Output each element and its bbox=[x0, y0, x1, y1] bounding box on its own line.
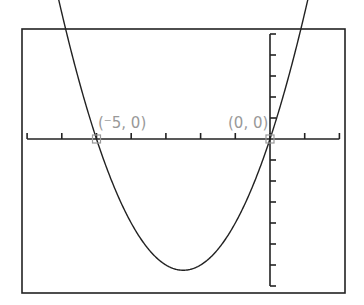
plot-frame bbox=[22, 29, 345, 293]
graph-window: (⁻5, 0) (0, 0) bbox=[0, 0, 364, 305]
label-point-origin: (0, 0) bbox=[228, 114, 268, 132]
parabola-curve bbox=[48, 0, 333, 270]
label-point-neg5: (⁻5, 0) bbox=[98, 114, 146, 132]
axes bbox=[27, 34, 339, 286]
